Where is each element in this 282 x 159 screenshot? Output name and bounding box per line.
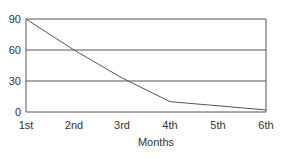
y-tick-label: 90	[9, 13, 21, 25]
y-tick-label: 60	[9, 44, 21, 56]
x-tick-label: 4th	[162, 119, 177, 131]
x-tick-label: 3rd	[114, 119, 130, 131]
x-tick-label: 6th	[258, 119, 273, 131]
x-tick-label: 1st	[19, 119, 34, 131]
line-chart: 03060901st2nd3rd4th5th6thMonths	[0, 0, 282, 159]
x-axis-title: Months	[138, 136, 175, 148]
y-tick-label: 30	[9, 75, 21, 87]
x-tick-label: 2nd	[65, 119, 83, 131]
x-tick-label: 5th	[210, 119, 225, 131]
series-line	[26, 19, 266, 110]
y-tick-label: 0	[15, 106, 21, 118]
